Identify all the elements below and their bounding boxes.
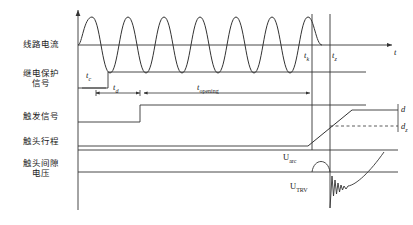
- d-symbol: d: [401, 104, 405, 114]
- row-label-gap-line1: 触头间隙: [8, 158, 74, 168]
- tz-subscript: z: [334, 56, 336, 62]
- row-label-trigger-signal: 触发信号: [8, 111, 74, 121]
- td-interval-label: td: [113, 82, 118, 94]
- tc-subscript: c: [88, 76, 91, 82]
- row-label-contact-gap-voltage: 触头间隙 电压: [8, 158, 74, 178]
- topening-interval-label: topening: [197, 82, 219, 94]
- dz-travel-label: dz: [401, 121, 408, 133]
- time-axis-label: t: [394, 47, 396, 57]
- tk-subscript: k: [306, 56, 309, 62]
- u-arc-label: Uarc: [283, 152, 296, 164]
- vertical-axis-arrow: [76, 10, 81, 16]
- d-travel-label: d: [401, 104, 405, 116]
- u-trv-waveform: [330, 150, 384, 208]
- row-label-gap-line2: 电压: [8, 168, 74, 178]
- td-subscript: d: [115, 88, 118, 94]
- tz-marker-label: tz: [332, 50, 337, 62]
- row-label-relay-line1: 继电保护: [8, 68, 74, 78]
- u-arc-subscript: arc: [289, 158, 296, 164]
- row-label-contact-travel: 触头行程: [8, 136, 74, 146]
- topening-subscript: opening: [199, 88, 218, 94]
- u-trv-label: UTRV: [290, 181, 308, 193]
- tk-marker-label: tk: [304, 50, 309, 62]
- tc-interval-label: tc: [86, 70, 91, 82]
- u-arc-waveform: [312, 162, 330, 173]
- row-label-relay-protection-signal: 继电保护 信号: [8, 68, 74, 88]
- row-label-relay-line2: 信号: [8, 78, 74, 88]
- u-trv-subscript: TRV: [296, 187, 308, 193]
- row-label-line-current: 线路电流: [8, 39, 74, 49]
- dz-subscript: z: [405, 127, 407, 133]
- timing-diagram-figure: 线路电流 继电保护 信号 触发信号 触头行程 触头间隙 电压 t tc td t…: [0, 0, 413, 225]
